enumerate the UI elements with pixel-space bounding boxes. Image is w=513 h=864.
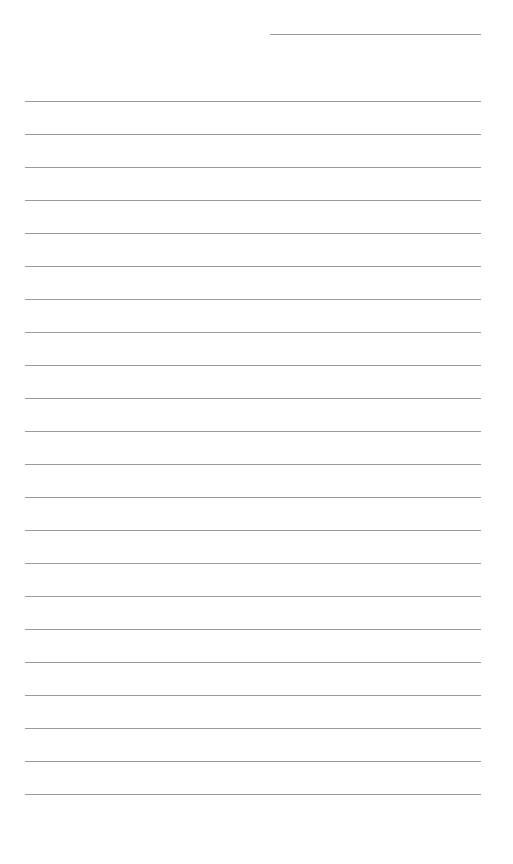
ruled-line — [25, 794, 481, 795]
ruled-line — [25, 695, 481, 696]
ruled-line — [25, 365, 481, 366]
ruled-line — [25, 662, 481, 663]
ruled-line — [25, 761, 481, 762]
ruled-line — [25, 200, 481, 201]
header-name-line — [270, 34, 481, 35]
ruled-line — [25, 431, 481, 432]
ruled-line — [25, 332, 481, 333]
ruled-line — [25, 233, 481, 234]
ruled-line — [25, 596, 481, 597]
ruled-line — [25, 134, 481, 135]
ruled-line — [25, 530, 481, 531]
ruled-line — [25, 629, 481, 630]
lined-paper-page — [0, 0, 513, 864]
ruled-line — [25, 464, 481, 465]
ruled-line — [25, 299, 481, 300]
ruled-line — [25, 728, 481, 729]
ruled-line — [25, 497, 481, 498]
ruled-line — [25, 398, 481, 399]
ruled-line — [25, 101, 481, 102]
ruled-line — [25, 266, 481, 267]
ruled-line — [25, 167, 481, 168]
ruled-line — [25, 563, 481, 564]
